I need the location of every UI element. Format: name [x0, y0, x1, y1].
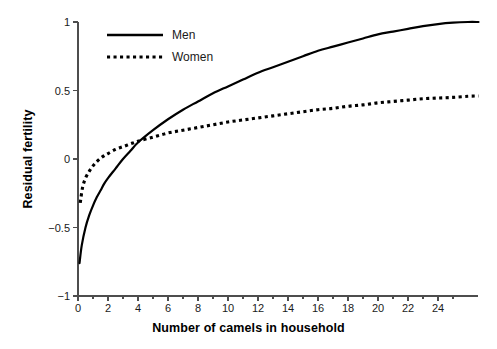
- legend-label-men: Men: [172, 28, 195, 42]
- series-line-men: [80, 22, 479, 263]
- x-tick-label: 20: [372, 302, 384, 314]
- x-tick-label: 8: [195, 302, 201, 314]
- x-tick-label: 2: [105, 302, 111, 314]
- y-tick-label: 0: [30, 153, 70, 165]
- chart-figure: Residual fertility Number of camels in h…: [0, 0, 497, 349]
- y-tick-label: −1: [30, 290, 70, 302]
- series-line-women: [80, 96, 478, 203]
- x-tick-label: 12: [252, 302, 264, 314]
- x-axis-title: Number of camels in household: [0, 321, 497, 335]
- x-tick-label: 0: [75, 302, 81, 314]
- y-tick-label: 1: [30, 16, 70, 28]
- legend-marks: [107, 35, 163, 57]
- legend-label-women: Women: [172, 50, 213, 64]
- y-tick-label: −0.5: [30, 222, 70, 234]
- chart-plot-area: [0, 0, 497, 349]
- x-tick-label: 24: [432, 302, 444, 314]
- x-tick-label: 6: [165, 302, 171, 314]
- axes: [78, 22, 478, 296]
- x-tick-label: 22: [402, 302, 414, 314]
- x-tick-label: 14: [282, 302, 294, 314]
- x-tick-label: 16: [312, 302, 324, 314]
- axis-ticks: [73, 22, 453, 301]
- x-tick-label: 10: [222, 302, 234, 314]
- y-tick-label: 0.5: [30, 85, 70, 97]
- x-tick-label: 4: [135, 302, 141, 314]
- x-tick-label: 18: [342, 302, 354, 314]
- data-series: [80, 22, 479, 263]
